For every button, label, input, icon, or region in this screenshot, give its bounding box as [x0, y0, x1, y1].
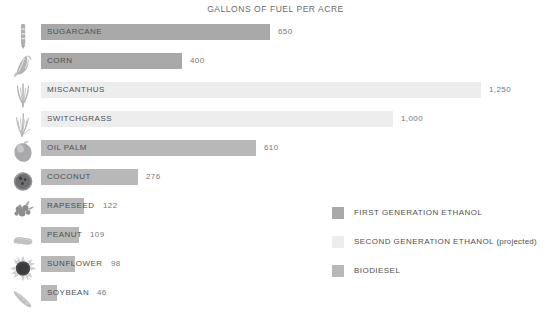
- bar-value-label: 276: [146, 169, 161, 185]
- bar-category-label: SUNFLOWER: [47, 256, 103, 272]
- bar-value-label: 1,000: [401, 111, 423, 127]
- oil-palm-fruit-icon: [8, 138, 38, 166]
- bar-row: SWITCHGRASS1,000: [0, 109, 551, 138]
- soybean-pod-icon: [8, 283, 38, 311]
- legend-label: BIODIESEL: [354, 265, 400, 277]
- bar-value-label: 109: [90, 227, 105, 243]
- bar-category-label: SUGARCANE: [47, 24, 102, 40]
- bar-row: MISCANTHUS1,250: [0, 80, 551, 109]
- bar: [41, 82, 481, 98]
- bar-value-label: 46: [97, 285, 107, 301]
- coconut-icon: [8, 167, 38, 195]
- bar-value-label: 650: [278, 24, 293, 40]
- bar-category-label: COCONUT: [47, 169, 91, 185]
- legend-swatch: [332, 207, 344, 219]
- bar-category-label: MISCANTHUS: [47, 82, 105, 98]
- legend-item: BIODIESEL: [332, 265, 547, 294]
- bar-category-label: CORN: [47, 53, 73, 69]
- bar-category-label: RAPESEED: [47, 198, 95, 214]
- bar-row: COCONUT276: [0, 167, 551, 196]
- bar-row: CORN400: [0, 51, 551, 80]
- chart-legend: FIRST GENERATION ETHANOLSECOND GENERATIO…: [332, 207, 547, 294]
- legend-swatch: [332, 265, 344, 277]
- peanut-icon: [8, 225, 38, 253]
- bar-category-label: PEANUT: [47, 227, 82, 243]
- bar-category-label: SOYBEAN: [47, 285, 89, 301]
- bar-row: OIL PALM610: [0, 138, 551, 167]
- legend-item: FIRST GENERATION ETHANOL: [332, 207, 547, 236]
- legend-label-note: (projected): [494, 237, 537, 246]
- miscanthus-grass-icon: [8, 80, 38, 108]
- bar-row: SUGARCANE650: [0, 22, 551, 51]
- bar-value-label: 400: [190, 53, 205, 69]
- legend-label: FIRST GENERATION ETHANOL: [354, 207, 482, 219]
- bar-category-label: SWITCHGRASS: [47, 111, 112, 127]
- switchgrass-icon: [8, 109, 38, 137]
- fuel-per-acre-chart: GALLONS OF FUEL PER ACRE SUGARCANE650COR…: [0, 0, 551, 315]
- bar-category-label: OIL PALM: [47, 140, 87, 156]
- sunflower-icon: [8, 254, 38, 282]
- chart-title: GALLONS OF FUEL PER ACRE: [0, 4, 551, 14]
- bar-value-label: 98: [111, 256, 121, 272]
- legend-swatch: [332, 236, 344, 248]
- bar-value-label: 610: [264, 140, 279, 156]
- bar-value-label: 1,250: [489, 82, 511, 98]
- sugarcane-stalk-icon: [8, 22, 38, 50]
- corn-cob-icon: [8, 51, 38, 79]
- rapeseed-icon: [8, 196, 38, 224]
- bar-value-label: 122: [103, 198, 118, 214]
- legend-item: SECOND GENERATION ETHANOL (projected): [332, 236, 547, 265]
- legend-label: SECOND GENERATION ETHANOL (projected): [354, 236, 537, 248]
